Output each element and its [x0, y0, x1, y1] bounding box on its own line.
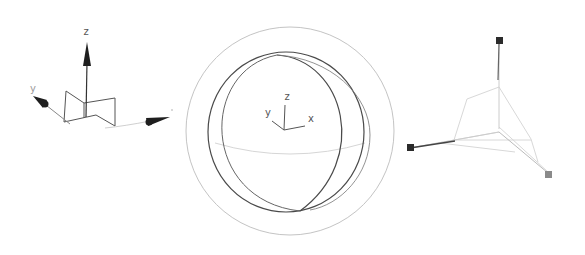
view-rotation-ring[interactable]: [186, 27, 394, 235]
inner-y-label: y: [265, 107, 271, 118]
x-rotation-ring[interactable]: [277, 55, 342, 211]
gizmo-canvas: z y z y x: [0, 0, 585, 255]
scale-x-handle[interactable]: [407, 144, 414, 151]
inner-x-axis: [284, 126, 305, 130]
scale-plane-lines[interactable]: [410, 87, 548, 172]
inner-z-axis: [284, 105, 285, 130]
z-rotation-ring[interactable]: [222, 55, 300, 211]
scale-y-axis[interactable]: [499, 132, 548, 173]
y-axis-label: y: [30, 83, 36, 94]
z-axis-label: z: [83, 26, 88, 37]
rotate-gizmo[interactable]: z y x: [186, 27, 394, 235]
inner-z-label: z: [284, 91, 289, 102]
move-gizmo[interactable]: z y: [30, 26, 173, 128]
z-axis-line[interactable]: [86, 62, 87, 117]
equator-ring[interactable]: [215, 143, 365, 154]
z-arrow-icon[interactable]: [83, 42, 91, 66]
scale-gizmo[interactable]: [407, 37, 552, 178]
scale-z-handle[interactable]: [496, 37, 503, 44]
sphere-outline-ring[interactable]: [208, 52, 364, 212]
move-plane-handle[interactable]: [64, 91, 115, 126]
inner-x-label: x: [308, 113, 314, 124]
inner-y-axis: [272, 121, 284, 130]
scale-y-handle[interactable]: [545, 171, 552, 178]
